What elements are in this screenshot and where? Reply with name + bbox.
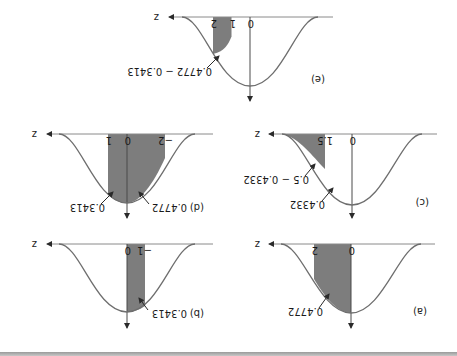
panel-b-tick-0: 0 <box>125 245 131 256</box>
panel-c: z 0 1.5 0.5 − 0.4332 0.4332 (c) <box>243 129 437 218</box>
panel-c-annotation-shaded: 0.5 − 0.4332 <box>243 174 309 185</box>
panel-c-annotation-center: 0.4332 <box>290 199 325 210</box>
bottom-border-band <box>0 352 457 356</box>
panel-d-annotation-left: 0.4772 <box>152 202 187 213</box>
panel-d-axis-label: z <box>32 129 37 140</box>
panel-e-tick-2: 2 <box>211 18 217 29</box>
panel-e: z 0 1 2 0.4772 − 0.3413 (e) <box>127 12 333 101</box>
panel-c-tick-1-5: 1.5 <box>317 135 333 146</box>
panel-e-axis-label: z <box>154 12 159 23</box>
panel-b-annotation: 0.3413 <box>152 308 187 319</box>
panel-a-axis-label: z <box>255 239 260 250</box>
panel-e-annotation: 0.4772 − 0.3413 <box>127 66 212 77</box>
panel-a-shaded-region <box>314 244 351 313</box>
panel-a-annotation: 0.4772 <box>288 306 323 317</box>
panel-c-tick-0: 0 <box>350 135 356 146</box>
panel-d-tick-1: 1 <box>106 135 112 146</box>
panel-d-annotation-right: 0.3413 <box>70 202 105 213</box>
panel-b-label: (b) <box>190 308 204 319</box>
panel-b: z −1 0 0.3413 (b) <box>32 239 213 328</box>
panel-e-tick-0: 0 <box>248 18 254 29</box>
panel-b-axis-label: z <box>32 239 37 250</box>
panel-b-tick-neg1: −1 <box>137 245 152 256</box>
panel-d-tick-0: 0 <box>125 135 131 146</box>
panel-e-tick-1: 1 <box>230 18 236 29</box>
panel-a: z 0 2 0.4772 (a) <box>255 239 435 328</box>
panel-a-label: (a) <box>413 306 427 317</box>
panel-a-tick-2: 2 <box>312 245 318 256</box>
panel-d-shaded-region <box>108 134 165 203</box>
panel-c-axis-label: z <box>255 129 260 140</box>
panel-e-label: (e) <box>311 74 325 85</box>
normal-distribution-figure: z 0 1 2 0.4772 − 0.3413 (e) z −2 0 1 0.4… <box>0 0 457 356</box>
panel-c-label: (c) <box>416 197 429 208</box>
panel-d: z −2 0 1 0.4772 0.3413 (d) <box>32 129 213 218</box>
panel-d-label: (d) <box>190 202 204 213</box>
panel-d-tick-neg2: −2 <box>158 135 173 146</box>
panel-a-tick-0: 0 <box>349 245 355 256</box>
